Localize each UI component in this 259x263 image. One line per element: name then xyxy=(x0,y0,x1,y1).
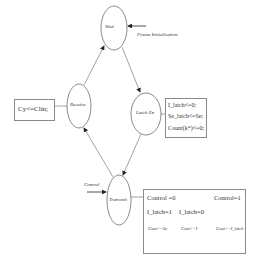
ilatch-1-label: I_latch=1 xyxy=(147,208,172,215)
frame-init-label: Frame Initialization xyxy=(137,32,177,37)
receive-action-box: Cy<=Clin; xyxy=(14,99,55,121)
latch-action-line-3: Count(k*)<=0; xyxy=(168,125,204,131)
state-label-wait: Wait xyxy=(105,24,114,29)
cout-se-label: Cout<=Se xyxy=(148,226,167,231)
control-label: Control xyxy=(84,182,99,187)
state-label-transmit: Transmit xyxy=(109,197,127,202)
transition-receive-to-wait xyxy=(84,46,104,85)
receive-action-line: Cy<=Clin; xyxy=(18,105,48,113)
latch-action-box: I_latch<=0; Se_latch<=Se; Count(k*)<=0; xyxy=(165,98,207,138)
transmit-action-box: Control =0 Control=1 I_latch=1 I_latch=0… xyxy=(143,189,246,254)
cout-ilatch-label: Cout<=I_latch xyxy=(216,226,244,231)
transition-latch-to-transmit xyxy=(123,134,141,175)
transition-transmit-to-receive xyxy=(84,128,113,177)
control-0-label: Control =0 xyxy=(147,194,175,201)
latch-action-line-1: I_latch<=0; xyxy=(168,102,196,108)
ilatch-0-label: I_latch=0 xyxy=(179,208,204,215)
control-1-label: Control=1 xyxy=(214,194,241,201)
state-label-latch-en: Latch En xyxy=(136,110,154,115)
cout-i-label: Cout<=I xyxy=(181,226,197,231)
state-label-receive: Receive xyxy=(70,102,86,107)
latch-action-line-2: Se_latch<=Se; xyxy=(168,113,203,119)
transition-wait-to-latch xyxy=(122,47,140,92)
